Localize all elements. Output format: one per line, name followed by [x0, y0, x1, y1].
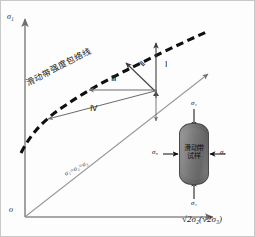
specimen-sigma1-bottom-label: σ₁	[191, 200, 197, 207]
specimen-sigma1-top-label: σ₁	[191, 100, 197, 107]
stress-path-II-arrow	[126, 63, 155, 91]
specimen-label: 滑动带 试样	[180, 144, 208, 160]
stress-path-label-I: Ⅰ	[165, 61, 167, 69]
plot-canvas	[1, 1, 255, 237]
stress-path-label-III: Ⅲ	[111, 75, 117, 83]
specimen-sigma3-right-label: σ₃	[220, 149, 226, 156]
specimen-label-line2: 试样	[180, 152, 208, 160]
x-axis-label: √2σ₂(√2σ₃)	[182, 215, 222, 224]
y-axis-label: σ₁	[7, 13, 14, 21]
specimen-label-line1: 滑动带	[180, 144, 208, 152]
stress-path-figure: σ₁ √2σ₂(√2σ₃) o 滑动带强度包络线 σ₁=σ₂=σ₃ Ⅰ Ⅱ Ⅲ …	[0, 0, 255, 237]
origin-label: o	[9, 206, 13, 214]
stress-path-label-IV: Ⅳ	[90, 105, 97, 113]
specimen-sigma3-left-label: σ₃	[152, 149, 158, 156]
